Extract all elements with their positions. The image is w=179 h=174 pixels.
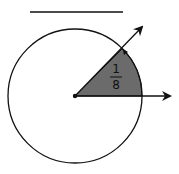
center-point	[73, 94, 77, 98]
fraction-denominator: 8	[112, 78, 120, 92]
fraction-numerator: 1	[112, 62, 120, 76]
fraction-circle-diagram: 1 8	[0, 0, 179, 174]
shaded-sector	[75, 49, 142, 96]
